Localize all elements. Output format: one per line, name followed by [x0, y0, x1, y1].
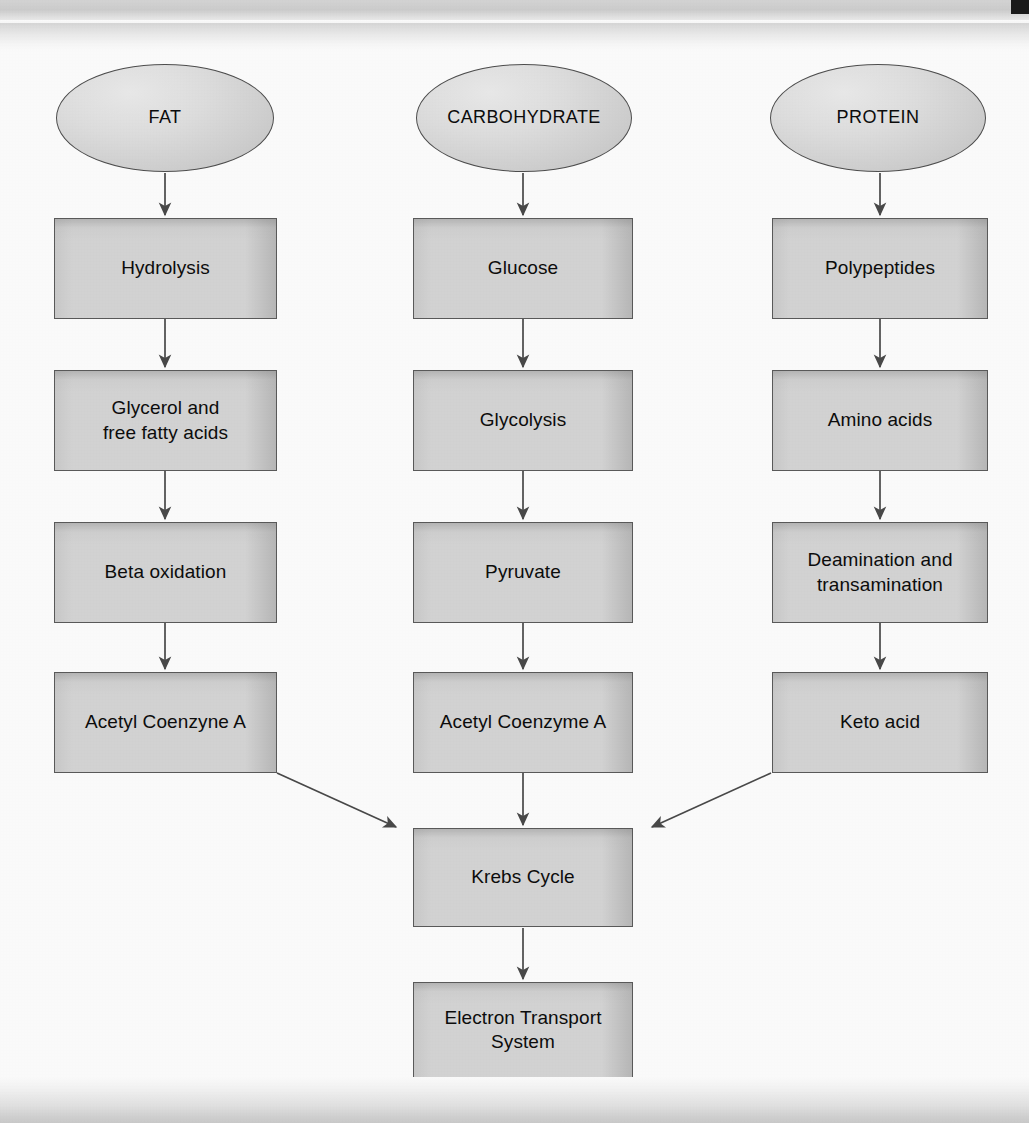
node-polypeptides[interactable]: Polypeptides	[772, 218, 988, 319]
node-label: FAT	[143, 106, 188, 129]
node-carbohydrate-source[interactable]: CARBOHYDRATE	[416, 64, 632, 172]
node-label: Glucose	[482, 256, 564, 280]
scan-top-band	[0, 0, 1029, 22]
node-krebs-cycle[interactable]: Krebs Cycle	[413, 828, 633, 927]
node-glycolysis[interactable]: Glycolysis	[413, 370, 633, 471]
node-label: Hydrolysis	[115, 256, 216, 280]
node-keto-acid[interactable]: Keto acid	[772, 672, 988, 773]
node-pyruvate[interactable]: Pyruvate	[413, 522, 633, 623]
node-acetyl-coenzyne-a-fat[interactable]: Acetyl Coenzyne A	[54, 672, 277, 773]
node-label: CARBOHYDRATE	[441, 106, 607, 129]
node-label: Electron Transport System	[438, 1006, 607, 1055]
node-fat-source[interactable]: FAT	[56, 64, 274, 172]
node-label: Amino acids	[822, 408, 939, 432]
node-beta-oxidation[interactable]: Beta oxidation	[54, 522, 277, 623]
scan-top-fade	[0, 23, 1029, 51]
node-electron-transport-system[interactable]: Electron Transport System	[413, 982, 633, 1078]
node-label: PROTEIN	[831, 106, 926, 129]
node-deamination-and-transamination[interactable]: Deamination and transamination	[772, 522, 988, 623]
arrow-acetyl-coa-fat-to-krebs	[277, 773, 396, 827]
node-glucose[interactable]: Glucose	[413, 218, 633, 319]
diagram-page: FAT Hydrolysis Glycerol and free fatty a…	[0, 0, 1029, 1123]
arrow-keto-acid-to-krebs	[652, 773, 771, 827]
scan-bottom-fade	[0, 1077, 1029, 1123]
node-hydrolysis[interactable]: Hydrolysis	[54, 218, 277, 319]
node-label: Acetyl Coenzyne A	[79, 710, 252, 734]
page-corner-mark	[1011, 0, 1029, 14]
node-label: Acetyl Coenzyme A	[434, 710, 612, 734]
node-amino-acids[interactable]: Amino acids	[772, 370, 988, 471]
node-label: Krebs Cycle	[465, 865, 581, 889]
node-label: Beta oxidation	[99, 560, 233, 584]
node-label: Deamination and transamination	[801, 548, 958, 597]
node-label: Keto acid	[834, 710, 926, 734]
node-glycerol-and-free-fatty-acids[interactable]: Glycerol and free fatty acids	[54, 370, 277, 471]
node-label: Pyruvate	[479, 560, 567, 584]
node-label: Glycolysis	[474, 408, 573, 432]
node-label: Glycerol and free fatty acids	[97, 396, 234, 445]
node-label: Polypeptides	[819, 256, 941, 280]
node-protein-source[interactable]: PROTEIN	[770, 64, 986, 172]
node-acetyl-coenzyme-a-carbohydrate[interactable]: Acetyl Coenzyme A	[413, 672, 633, 773]
